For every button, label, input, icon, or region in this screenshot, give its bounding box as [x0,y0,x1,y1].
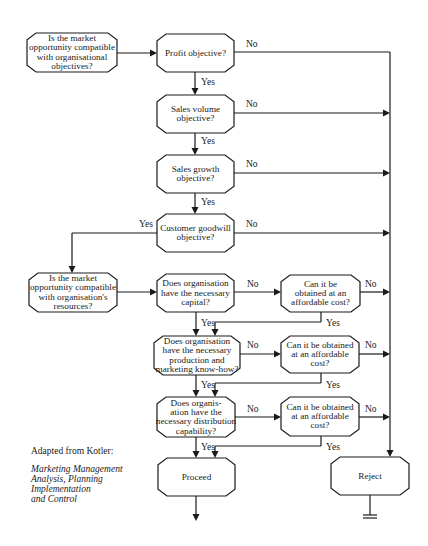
edge-label-yes: Yes [201,197,215,207]
edge-label-yes: Yes [201,318,215,328]
edge-label-no: No [246,159,258,169]
book-title: Marketing Management Analysis, Planning … [31,464,123,504]
node-resources-compat: Is the marketopportunity compatiblewith … [29,273,117,312]
node-goodwill: Customer goodwillobjective? [157,214,234,252]
node-text-line: objective? [177,113,215,123]
node-text-line: marketing know-how? [156,364,239,374]
node-text-line: capital? [181,297,210,307]
node-knowhow: Does organisationhave the necessaryprodu… [154,336,240,375]
node-text-line: resources? [54,301,93,311]
node-distribution-cost: Can it be obtainedat an affordablecost? [281,397,359,436]
edge-label-yes: Yes [326,442,340,452]
edge-label-no: No [246,39,258,49]
node-text-line: Profit objective? [165,48,226,58]
edge-label-no: No [247,279,259,289]
node-start-compat: Is the marketopportunity compatiblewith … [27,33,117,72]
node-text-line: objective? [177,173,215,183]
node-sales-growth: Sales growthobjective? [157,155,234,193]
book-title-line: Analysis, Planning [31,474,123,484]
node-profit: Profit objective? [157,34,234,72]
edge-label-yes: Yes [201,77,215,87]
node-distribution: Does organis-ation have thenecessary dis… [156,397,237,437]
edge-label-yes: Yes [326,380,340,390]
edge-label-yes: Yes [201,136,215,146]
edge-label-no: No [246,219,258,229]
node-text-line: cost? [311,420,330,430]
edge-label-yes: Yes [201,380,215,390]
node-knowhow-cost: Can it be obtainedat an affordablecost? [281,336,359,373]
edge-label-no: No [246,99,258,109]
source-caption: Adapted from Kotler: [31,446,113,456]
node-text-line: objective? [177,232,215,242]
edge-label-no: No [365,404,377,414]
edge-label-no: No [365,340,377,350]
book-title-line: Implementation [31,484,123,494]
node-text-line: affordable cost? [291,297,350,307]
node-text-line: cost? [311,358,330,368]
edge-label-no: No [365,279,377,289]
edge-label-no: No [247,404,259,414]
node-proceed: Proceed [158,458,235,496]
node-reject: Reject [331,457,409,495]
node-text-line: capability? [176,426,216,436]
edge-label-yes: Yes [326,318,340,328]
decision-nodes: Is the marketopportunity compatiblewith … [27,33,409,496]
node-capital-cost: Can it beobtained at anaffordable cost? [281,275,360,312]
edge-label-yes: Yes [201,442,215,452]
node-text-line: Reject [358,471,382,481]
node-text-line: Proceed [182,472,212,482]
node-capital: Does organisationhave the necessarycapit… [157,274,234,312]
node-sales-volume: Sales volumeobjective? [157,95,234,133]
book-title-line: and Control [31,494,123,504]
node-text-line: objectives? [51,61,92,71]
book-title-line: Marketing Management [31,464,123,474]
edge-label-yes: Yes [139,219,153,229]
edge-label-no: No [247,340,259,350]
